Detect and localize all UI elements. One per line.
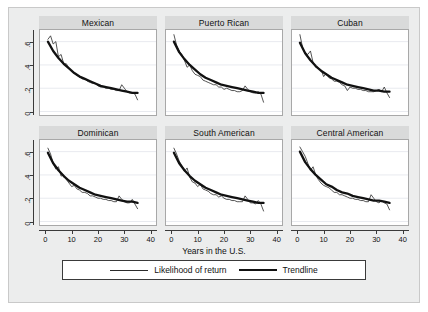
x-tick-mark (224, 231, 225, 234)
legend-line-swatch (110, 270, 148, 271)
panel-title: Mexican (39, 16, 157, 29)
x-tick-mark (250, 231, 251, 234)
x-tick-label: 40 (393, 235, 413, 244)
panel-title: Cuban (291, 16, 409, 29)
x-tick-mark (171, 231, 172, 234)
plot-area (291, 29, 409, 116)
panel-title: South American (165, 126, 283, 139)
y-tick-label: .2 (23, 88, 32, 108)
x-tick-label: 40 (141, 235, 161, 244)
y-axis-line (33, 30, 34, 115)
x-tick-mark (376, 231, 377, 234)
x-tick-label: 10 (314, 235, 334, 244)
panel-title: Dominican (39, 126, 157, 139)
x-tick-mark (72, 231, 73, 234)
x-tick-mark (350, 231, 351, 234)
x-tick-mark (324, 231, 325, 234)
chart-legend: Likelihood of returnTrendline (62, 260, 366, 280)
x-tick-mark (297, 231, 298, 234)
chart-panel: Mexican (39, 16, 157, 116)
x-tick-label: 40 (267, 235, 287, 244)
x-tick-label: 0 (287, 235, 307, 244)
y-tick-label: .4 (23, 64, 32, 84)
plot-area (165, 29, 283, 116)
panel-title: Central American (291, 126, 409, 139)
panel-title: Puerto Rican (165, 16, 283, 29)
x-axis-label: Years in the U.S. (9, 246, 419, 256)
x-tick-mark (45, 231, 46, 234)
x-tick-mark (198, 231, 199, 234)
x-tick-label: 30 (114, 235, 134, 244)
x-tick-mark (98, 231, 99, 234)
y-tick-label: .6 (23, 41, 32, 61)
legend-label: Trendline (283, 265, 318, 275)
legend-item: Likelihood of return (110, 265, 226, 275)
x-tick-label: 10 (62, 235, 82, 244)
legend-label: Likelihood of return (154, 265, 226, 275)
y-axis-line (33, 140, 34, 225)
legend-item: Trendline (239, 265, 318, 275)
chart-panel: Puerto Rican (165, 16, 283, 116)
chart-panel: Dominican (39, 126, 157, 226)
x-tick-label: 30 (366, 235, 386, 244)
y-tick-label: .4 (23, 174, 32, 194)
y-tick-label: 0 (23, 111, 32, 131)
y-tick-label: .2 (23, 198, 32, 218)
x-tick-label: 0 (35, 235, 55, 244)
plot-area (291, 139, 409, 226)
plot-area (39, 29, 157, 116)
x-tick-label: 0 (161, 235, 181, 244)
x-tick-mark (124, 231, 125, 234)
chart-panel: Central American (291, 126, 409, 226)
plot-area (165, 139, 283, 226)
x-tick-label: 20 (214, 235, 234, 244)
x-tick-label: 10 (188, 235, 208, 244)
legend-line-swatch (239, 269, 277, 271)
x-tick-mark (403, 231, 404, 234)
x-tick-mark (277, 231, 278, 234)
x-tick-mark (151, 231, 152, 234)
x-tick-label: 20 (340, 235, 360, 244)
x-tick-label: 30 (240, 235, 260, 244)
chart-panel: South American (165, 126, 283, 226)
figure-container: MexicanPuerto RicanCubanDominicanSouth A… (8, 7, 420, 303)
y-tick-label: 0 (23, 221, 32, 241)
y-tick-label: .6 (23, 151, 32, 171)
chart-panel: Cuban (291, 16, 409, 116)
plot-area (39, 139, 157, 226)
x-tick-label: 20 (88, 235, 108, 244)
